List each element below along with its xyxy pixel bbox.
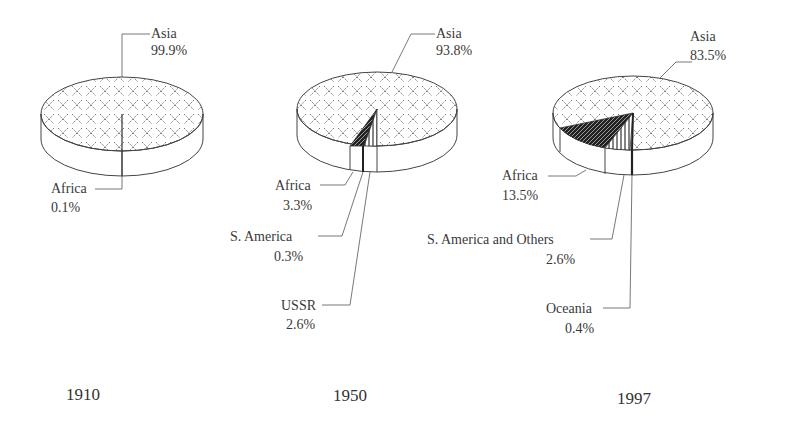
leader-1910-africa [95, 176, 122, 189]
year-1950: 1950 [333, 386, 367, 405]
value-1950-ussr: 2.6% [286, 317, 316, 332]
label-1950-ussr: USSR [281, 298, 317, 313]
value-1950-samerica: 0.3% [274, 249, 304, 264]
pie-1950: Asia 93.8% Africa 3.3% S. America 0.3% U… [230, 26, 473, 405]
leader-1950-ussr [322, 172, 370, 305]
leader-1950-asia [392, 34, 435, 72]
label-1997-asia: Asia [690, 29, 716, 44]
label-1950-samerica: S. America [230, 229, 293, 244]
value-1910-asia: 99.9% [151, 43, 188, 58]
label-1997-oceania: Oceania [546, 301, 593, 316]
leader-1950-africa [320, 172, 353, 185]
pie-1910: Asia 99.9% Africa 0.1% 1910 [41, 26, 203, 404]
label-1997-africa: Africa [502, 168, 539, 183]
label-1997-samerica: S. America and Others [427, 232, 554, 247]
leader-1997-asia [660, 62, 692, 78]
value-1997-samerica: 2.6% [546, 252, 576, 267]
label-1950-asia: Asia [436, 26, 462, 41]
value-1997-asia: 83.5% [690, 48, 727, 63]
leader-1950-samerica [318, 172, 363, 236]
leader-1997-samerica [590, 175, 624, 239]
value-1950-africa: 3.3% [283, 198, 313, 213]
leader-1910-asia [122, 34, 150, 77]
pie-charts: Asia 99.9% Africa 0.1% 1910 Asia 93.8% A… [0, 0, 797, 426]
leader-1997-oceania [603, 175, 632, 308]
label-1950-africa: Africa [275, 178, 312, 193]
value-1997-oceania: 0.4% [565, 321, 595, 336]
label-1910-asia: Asia [151, 26, 177, 41]
pie-1997: Asia 83.5% Africa 13.5% S. America and O… [427, 29, 727, 408]
year-1997: 1997 [617, 389, 652, 408]
label-1910-africa: Africa [51, 181, 88, 196]
value-1950-asia: 93.8% [436, 43, 473, 58]
leader-1997-africa [548, 170, 586, 176]
value-1997-africa: 13.5% [502, 188, 539, 203]
year-1910: 1910 [66, 385, 100, 404]
value-1910-africa: 0.1% [51, 200, 81, 215]
